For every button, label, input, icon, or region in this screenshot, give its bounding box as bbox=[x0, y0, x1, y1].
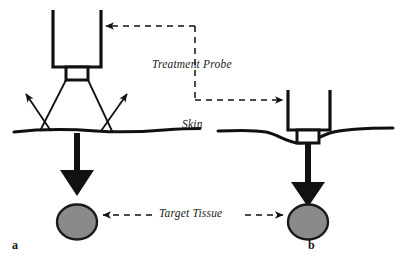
energy-arrow-head-right bbox=[291, 182, 325, 207]
probe-body-right bbox=[288, 90, 330, 130]
panel-label-b: b bbox=[308, 238, 315, 253]
label-target-tissue: Target Tissue bbox=[159, 207, 222, 219]
panel-label-a: a bbox=[12, 238, 18, 253]
diagram-canvas bbox=[0, 0, 407, 266]
probe-tip-right bbox=[297, 130, 319, 143]
beam-line-right-outer bbox=[88, 80, 112, 131]
energy-arrow-head-left bbox=[60, 170, 94, 196]
probe-body-left bbox=[53, 10, 101, 67]
treatment-probe-diagram: Treatment Probe Skin Target Tissue a b bbox=[0, 0, 407, 266]
label-treatment-probe: Treatment Probe bbox=[152, 58, 232, 70]
scatter-arrow-left bbox=[26, 94, 51, 131]
target-tissue-left bbox=[57, 205, 97, 240]
scatter-arrow-right bbox=[101, 94, 127, 131]
target-tissue-right bbox=[288, 205, 328, 240]
beam-line-left-outer bbox=[40, 80, 66, 131]
label-skin: Skin bbox=[182, 118, 203, 130]
probe-tip-left bbox=[66, 67, 88, 80]
